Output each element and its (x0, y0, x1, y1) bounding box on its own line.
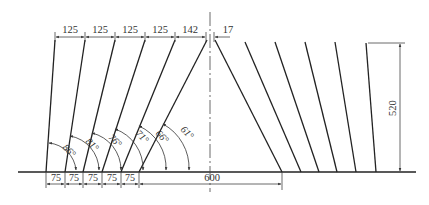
top-dim-4: 125 (152, 24, 168, 35)
bottom-dim-2: 75 (69, 172, 79, 183)
span-dim-label: 600 (204, 172, 220, 183)
angle-label-86: 86° (61, 142, 79, 160)
height-dim-label: 520 (387, 100, 398, 116)
angle-label-71: 71° (134, 128, 152, 146)
angle-label-76: 76° (107, 132, 125, 150)
angle-label-61: 61° (179, 124, 197, 142)
top-dim-6: 17 (223, 24, 234, 35)
bottom-dim-1: 75 (51, 172, 61, 183)
bottom-dim-3: 75 (88, 172, 98, 183)
top-dimension-chain (55, 32, 230, 42)
fan-lines-diagram: 125 125 125 125 142 17 520 75 75 75 75 7… (0, 0, 429, 205)
angle-label-81: 81° (84, 136, 102, 154)
bottom-dim-5: 75 (125, 172, 135, 183)
bottom-dimension-chain (46, 172, 282, 190)
top-dim-2: 125 (92, 24, 108, 35)
bottom-dim-4: 75 (107, 172, 117, 183)
top-dim-3: 125 (122, 24, 138, 35)
top-dim-1: 125 (62, 24, 78, 35)
right-inclined-lines (215, 40, 376, 172)
top-dim-5: 142 (182, 24, 198, 35)
angle-label-66: 66° (154, 128, 172, 146)
